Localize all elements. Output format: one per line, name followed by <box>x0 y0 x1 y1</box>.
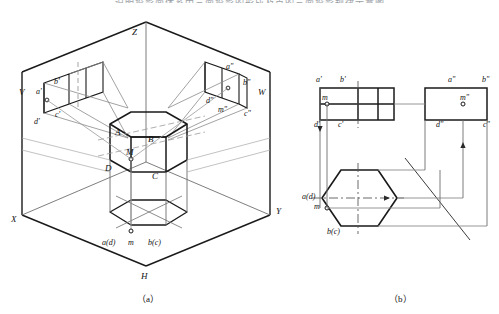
b-prime-label-a: b' <box>54 78 60 86</box>
bc-pair-label-a: b(c) <box>148 239 161 247</box>
c-dprime-label-a: c" <box>244 110 251 118</box>
axis-label-x: X <box>11 215 17 224</box>
diagram-a <box>22 22 270 266</box>
figure-root: 说明投影面体系中三面投影的形成及点的三面投影规律示意图 <box>0 0 499 314</box>
point-m-h-marker <box>129 229 133 233</box>
top-bc-pair-label: b(c) <box>327 228 340 236</box>
c-prime-label-a: c' <box>55 111 60 119</box>
side-view-m-marker <box>461 102 465 106</box>
axis-label-y: Y <box>276 207 281 216</box>
plane-label-v: V <box>19 88 25 97</box>
side-b-dprime-label: b" <box>482 76 489 84</box>
hex-prism-vertical-edges <box>110 160 187 225</box>
technical-drawing-canvas <box>0 0 499 314</box>
v-plane-projection <box>44 62 103 113</box>
caption-b: （b） <box>389 292 412 305</box>
vertex-label-D: D <box>105 164 112 173</box>
M-lateral-projectors <box>47 88 228 159</box>
vertex-label-C: C <box>152 172 158 181</box>
point-label-M: M <box>126 148 134 157</box>
m-dprime-label-a: m" <box>218 106 227 114</box>
axis-label-z: Z <box>132 28 137 37</box>
top-m-label: m <box>314 203 320 211</box>
plane-label-w: W <box>258 88 266 97</box>
side-m-dprime-label: m" <box>460 94 469 102</box>
caption-a: （a） <box>137 292 159 305</box>
d-dprime-label-a: d" <box>206 97 213 105</box>
side-view-outline <box>425 88 487 120</box>
front-view-outline <box>320 88 394 120</box>
projector-arrow-side <box>460 142 465 148</box>
front-d-prime-label: d' <box>314 121 320 129</box>
front-m-label: m <box>322 94 328 102</box>
vertex-label-A: A <box>115 128 121 137</box>
side-view-vertical-projectors <box>425 120 487 226</box>
d-prime-label-a: d' <box>34 118 40 126</box>
front-c-prime-label: c' <box>338 121 343 129</box>
projector-arrow-top-view <box>384 196 390 201</box>
y-axis-line <box>146 162 270 215</box>
side-c-dprime-label: c" <box>483 121 490 129</box>
bottom-hex-centerlines <box>116 196 182 228</box>
m-h-label-a: m <box>128 239 134 247</box>
ad-pair-label-a: a(d) <box>102 239 115 247</box>
side-a-dprime-label: a" <box>448 76 455 84</box>
b-dprime-label-a: b" <box>243 79 250 87</box>
a-dprime-label-a: a" <box>226 63 233 71</box>
vertex-label-B: B <box>148 135 154 144</box>
front-b-prime-label: b' <box>340 76 346 84</box>
a-prime-label-a: a' <box>36 88 42 96</box>
side-d-dprime-label: d" <box>436 121 443 129</box>
plane-label-h: H <box>141 272 148 281</box>
top-ad-pair-label: a(d) <box>302 193 315 201</box>
front-a-prime-label: a' <box>316 76 322 84</box>
diagram-b <box>312 81 487 240</box>
top-view-centerlines <box>312 163 404 234</box>
